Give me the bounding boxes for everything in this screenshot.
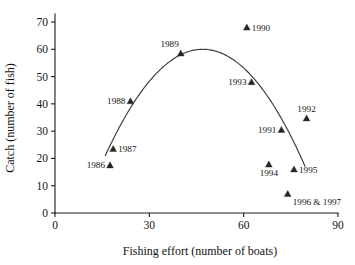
x-axis-tick-label: 90 <box>332 219 344 231</box>
axes <box>55 14 338 213</box>
data-point-marker <box>278 126 285 132</box>
data-point-marker <box>303 115 310 121</box>
data-point-marker <box>291 166 298 172</box>
data-point-label: 1988 <box>107 96 126 106</box>
x-axis-title: Fishing effort (number of boats) <box>123 244 277 258</box>
x-axis-tick-label: 0 <box>52 219 58 231</box>
y-axis-tick-label: 70 <box>37 16 49 28</box>
data-point-label: 1987 <box>118 144 137 154</box>
axis-ticks <box>51 22 338 217</box>
data-point-marker <box>248 79 255 85</box>
x-axis-tick-label: 60 <box>238 219 250 231</box>
y-axis-title: Catch (number of fish) <box>3 63 17 173</box>
y-axis-tick-label: 60 <box>37 43 49 55</box>
chart-canvas: 0102030405060700306090 19861987198819891… <box>0 0 355 265</box>
data-point-marker <box>243 24 250 30</box>
data-point-label: 1986 <box>87 160 106 170</box>
y-axis-tick-label: 40 <box>37 98 49 110</box>
data-point-label: 1992 <box>297 104 316 114</box>
data-point-label: 1991 <box>258 125 277 135</box>
data-point-label: 1990 <box>252 23 271 33</box>
y-axis-tick-label: 10 <box>37 180 49 192</box>
data-point-marker <box>107 162 114 168</box>
y-axis-tick-label: 50 <box>37 71 49 83</box>
data-point-marker <box>265 161 272 167</box>
data-point-marker <box>110 145 117 151</box>
fisheries-catch-effort-chart: 0102030405060700306090 19861987198819891… <box>0 0 355 265</box>
data-point-marker <box>127 98 134 104</box>
data-point-label: 1996 & 1997 <box>293 197 342 207</box>
data-point-label: 1995 <box>299 165 318 175</box>
data-point-marker <box>284 191 291 197</box>
data-point-label: 1994 <box>260 168 279 178</box>
y-axis-tick-label: 30 <box>37 125 49 137</box>
y-axis-tick-label: 0 <box>42 207 48 219</box>
x-axis-tick-label: 30 <box>144 219 156 231</box>
y-axis-tick-label: 20 <box>37 152 49 164</box>
data-point-label: 1993 <box>228 77 247 87</box>
data-point-label: 1989 <box>160 39 179 49</box>
